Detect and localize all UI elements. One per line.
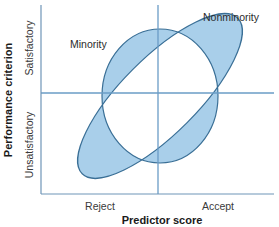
- ellipse-group: [55, 0, 264, 201]
- predictor-criterion-diagram: Minority Nonminority Reject Accept Predi…: [0, 0, 279, 227]
- y-tick-unsatisfactory: Unsatisfactory: [23, 111, 35, 178]
- y-tick-satisfactory: Satisfactory: [23, 20, 35, 76]
- minority-label: Minority: [70, 38, 108, 50]
- nonminority-label: Nonminority: [203, 11, 260, 23]
- x-tick-accept: Accept: [202, 200, 234, 212]
- y-axis-title: Performance criterion: [2, 43, 14, 158]
- x-axis-title: Predictor score: [122, 214, 203, 226]
- x-tick-reject: Reject: [85, 200, 115, 212]
